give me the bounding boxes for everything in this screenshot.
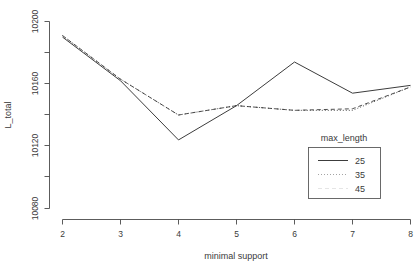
y-axis: 10200 10160 10120 10080 L_total <box>3 9 50 220</box>
legend-title: max_length <box>321 133 368 143</box>
series-line-25 <box>63 37 411 140</box>
y-tick-label-10080: 10080 <box>30 196 40 220</box>
y-tick-label-10120: 10120 <box>30 133 40 157</box>
x-axis: 2 3 4 5 6 7 8 minimal support <box>60 220 413 262</box>
x-tick-label-3: 3 <box>118 229 123 239</box>
chart-container: 10200 10160 10120 10080 L_total 2 3 4 5 … <box>0 0 416 268</box>
x-tick-label-6: 6 <box>292 229 297 239</box>
x-axis-title: minimal support <box>204 251 268 261</box>
legend-label-25: 25 <box>355 156 365 166</box>
y-axis-title: L_total <box>3 101 13 128</box>
x-tick-label-7: 7 <box>350 229 355 239</box>
line-chart: 10200 10160 10120 10080 L_total 2 3 4 5 … <box>0 0 416 268</box>
x-tick-label-4: 4 <box>176 229 181 239</box>
x-tick-label-5: 5 <box>234 229 239 239</box>
y-tick-label-10200: 10200 <box>30 9 40 33</box>
x-tick-label-2: 2 <box>60 229 65 239</box>
legend-label-35: 35 <box>355 170 365 180</box>
y-tick-label-10160: 10160 <box>30 71 40 95</box>
series-group <box>63 36 411 140</box>
legend: max_length 25 35 45 <box>309 133 381 199</box>
legend-label-45: 45 <box>355 184 365 194</box>
x-tick-label-8: 8 <box>408 229 413 239</box>
legend-box <box>309 148 381 199</box>
series-line-45 <box>63 36 411 115</box>
